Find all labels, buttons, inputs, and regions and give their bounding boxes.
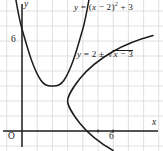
graph-figure: y = (x − 2)2 + 3 y = 2 ± √x − 3 6 6 O x … bbox=[0, 0, 163, 151]
vinculum-bar bbox=[113, 50, 134, 51]
eq2-radicand: x − 3 bbox=[113, 49, 133, 59]
equation-label-parabola: y = (x − 2)2 + 3 bbox=[74, 2, 133, 12]
x-axis-tick-label-6: 6 bbox=[109, 131, 114, 141]
axis-lines bbox=[3, 4, 158, 147]
y-axis-tick-label-6: 6 bbox=[11, 34, 16, 44]
eq1-outer-const: 3 bbox=[128, 2, 133, 12]
graph-canvas bbox=[0, 0, 163, 151]
x-axis-label: x bbox=[152, 117, 156, 127]
y-axis-label: y bbox=[24, 0, 28, 9]
eq2-radical: √x − 3 bbox=[107, 49, 133, 59]
equation-label-square-root: y = 2 ± √x − 3 bbox=[77, 49, 133, 59]
eq2-radicand-const: 3 bbox=[128, 49, 133, 59]
grid-lines bbox=[0, 0, 163, 151]
origin-label: O bbox=[8, 131, 15, 141]
